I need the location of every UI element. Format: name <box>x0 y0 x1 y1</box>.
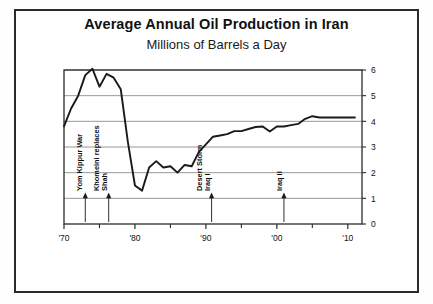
annotation-arrow-head <box>83 193 88 199</box>
chart-figure: Average Annual Oil Production in Iran Mi… <box>0 0 433 304</box>
y-tick-label: 5 <box>371 91 376 101</box>
y-axis-ticks: 0123456 <box>362 65 376 229</box>
annotation-arrow-head <box>209 193 214 199</box>
y-tick-label: 3 <box>371 142 376 152</box>
annotation-arrow-head <box>106 193 111 199</box>
x-tick-label: '10 <box>342 233 353 243</box>
annotation-label: Shah <box>100 172 109 191</box>
x-tick-label: '00 <box>271 233 282 243</box>
x-axis-ticks: '70'80'90'00'10 <box>58 224 353 243</box>
annotation-label: Iraq I <box>203 173 212 191</box>
x-tick-label: '80 <box>129 233 140 243</box>
x-tick-label: '90 <box>200 233 211 243</box>
annotation-label: Iraq II <box>275 171 284 191</box>
x-tick-label: '70 <box>58 233 69 243</box>
y-tick-label: 1 <box>371 194 376 204</box>
line-chart-plot: 0123456 '70'80'90'00'10 Yom Kippur WarKh… <box>0 0 433 304</box>
annotation-arrow-head <box>281 193 286 199</box>
y-tick-label: 4 <box>371 117 376 127</box>
y-tick-label: 0 <box>371 219 376 229</box>
event-annotations: Yom Kippur WarKhomeini replacesShahDeser… <box>75 125 287 222</box>
y-tick-label: 6 <box>371 65 376 75</box>
y-tick-label: 2 <box>371 168 376 178</box>
annotation-label: Yom Kippur War <box>75 134 84 191</box>
